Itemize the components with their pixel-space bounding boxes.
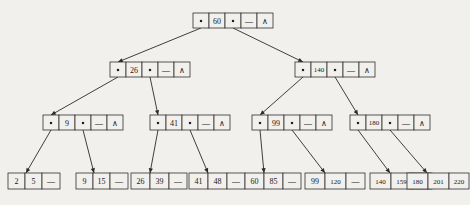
node-key-value: 220 [454, 178, 465, 186]
edge-arrowhead-icon [385, 168, 390, 173]
tree-node-internal-26: 26—∧ [110, 62, 190, 77]
node-cell-null: — [346, 173, 365, 189]
node-cell-key: 99 [305, 173, 325, 189]
node-cell-pointer [142, 62, 158, 77]
null-pointer-icon: — [94, 119, 104, 128]
tree-node-leaf-2: 915— [76, 173, 128, 189]
node-cell-pointer [327, 62, 343, 77]
pointer-dot-icon [117, 69, 119, 71]
node-key-value: 9 [83, 177, 87, 186]
node-key-value: 15 [98, 177, 106, 186]
node-cell-end: ∧ [257, 13, 273, 28]
node-cell-key: 48 [208, 173, 227, 189]
pointer-dot-icon [189, 122, 191, 124]
node-cell-null: — [91, 115, 107, 130]
node-cell-null: — [42, 173, 60, 189]
null-pointer-icon: — [303, 119, 313, 128]
tree-node-leaf-3: 2639— [131, 173, 187, 189]
null-pointer-icon: — [401, 119, 411, 128]
tree-edge [233, 28, 303, 62]
tree-edge [190, 130, 208, 173]
null-pointer-icon: — [244, 17, 254, 26]
node-cell-key: 60 [209, 13, 225, 28]
tree-edge [260, 77, 303, 115]
node-key-value: 41 [170, 119, 178, 128]
node-cell-pointer [182, 115, 198, 130]
node-cell-end: ∧ [414, 115, 430, 130]
tree-node-internal-140: 140—∧ [295, 62, 375, 77]
node-cell-pointer [75, 115, 91, 130]
pointer-dot-icon [157, 122, 159, 124]
tree-node-leaf-5: 6085— [245, 173, 301, 189]
tree-edge [51, 77, 118, 115]
node-cell-end: ∧ [107, 115, 123, 130]
node-cell-null: — [398, 115, 414, 130]
node-key-value: 140 [375, 178, 386, 186]
tree-edge [149, 130, 158, 173]
node-cell-null: — [169, 173, 187, 189]
pointer-dot-icon [389, 122, 391, 124]
tree-node-leaf-6: 99120— [305, 173, 365, 189]
node-cell-key: 140 [370, 173, 391, 189]
node-key-value: 41 [195, 177, 203, 186]
null-pointer-icon: — [173, 177, 183, 186]
node-cell-key: 2 [8, 173, 25, 189]
node-cell-end: ∧ [174, 62, 190, 77]
node-cell-key: 85 [264, 173, 283, 189]
tree-node-leaf-4: 4148— [189, 173, 245, 189]
node-cell-pointer [284, 115, 300, 130]
tree-node-leaf-1: 25— [8, 173, 60, 189]
edge-arrowhead-icon [320, 168, 325, 173]
node-cell-pointer [350, 115, 366, 130]
node-cell-key: 99 [268, 115, 284, 130]
pointer-dot-icon [232, 20, 234, 22]
node-terminator-icon: ∧ [262, 17, 268, 26]
tree-edge [335, 77, 358, 115]
node-cell-key: 201 [428, 173, 449, 189]
tree-node-leaf-8: 180201220 [407, 173, 469, 189]
node-cell-pointer [225, 13, 241, 28]
node-cell-key: 9 [59, 115, 75, 130]
node-cell-key: 41 [166, 115, 182, 130]
tree-node-internal-99: 99—∧ [252, 115, 332, 130]
pointer-dot-icon [50, 122, 52, 124]
node-cell-key: 220 [449, 173, 469, 189]
node-cell-pointer [295, 62, 311, 77]
node-cell-key: 180 [407, 173, 428, 189]
node-cell-null: — [241, 13, 257, 28]
node-cell-key: 140 [311, 62, 327, 77]
pointer-dot-icon [357, 122, 359, 124]
pointer-dot-icon [82, 122, 84, 124]
node-cell-key: 41 [189, 173, 208, 189]
tree-edge [150, 77, 159, 115]
edge-arrowhead-icon [149, 168, 153, 173]
tree-edge [118, 28, 201, 62]
node-key-value: 85 [270, 177, 278, 186]
node-key-value: 120 [330, 178, 341, 186]
tree-edge [260, 130, 266, 173]
pointer-dot-icon [334, 69, 336, 71]
node-cell-null: — [227, 173, 245, 189]
node-cell-pointer [252, 115, 268, 130]
node-key-value: 60 [213, 17, 221, 26]
node-cell-end: ∧ [359, 62, 375, 77]
null-pointer-icon: — [114, 177, 124, 186]
node-cell-key: 39 [150, 173, 169, 189]
node-key-value: 180 [412, 178, 423, 186]
node-layer: 60—∧26—∧140—∧9—∧41—∧99—∧180—∧25—915—2639… [8, 13, 469, 189]
node-cell-pointer [110, 62, 126, 77]
tree-edge [83, 130, 95, 173]
node-key-value: 159 [396, 178, 407, 186]
node-key-value: 48 [214, 177, 222, 186]
pointer-dot-icon [291, 122, 293, 124]
null-pointer-icon: — [231, 177, 241, 186]
node-cell-key: 9 [76, 173, 93, 189]
node-cell-key: 15 [93, 173, 110, 189]
node-cell-pointer [150, 115, 166, 130]
node-key-value: 180 [369, 119, 380, 127]
node-terminator-icon: ∧ [364, 66, 370, 75]
node-terminator-icon: ∧ [419, 119, 425, 128]
null-pointer-icon: — [346, 66, 356, 75]
pointer-dot-icon [302, 69, 304, 71]
node-cell-null: — [283, 173, 301, 189]
